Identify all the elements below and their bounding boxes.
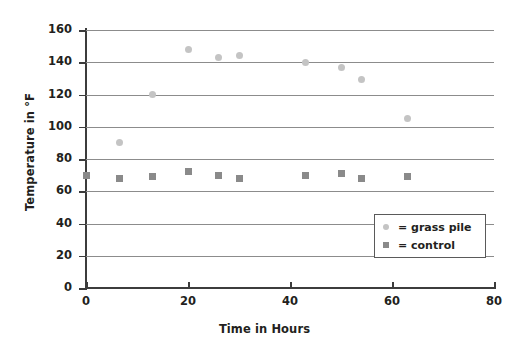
data-point-grass-pile <box>149 91 156 98</box>
y-axis-tick <box>79 288 86 290</box>
gridline <box>86 127 494 128</box>
y-axis-tick-label: 0 <box>36 280 72 294</box>
x-axis-tick <box>494 282 496 289</box>
data-point-control <box>185 168 192 175</box>
data-point-control <box>236 175 243 182</box>
y-axis-title: Temperature in °F <box>23 52 37 252</box>
square-marker-icon <box>383 242 389 248</box>
data-point-grass-pile <box>185 46 192 53</box>
gridline <box>86 62 494 63</box>
data-point-control <box>302 172 309 179</box>
y-axis-tick-label: 40 <box>36 216 72 230</box>
data-point-control <box>83 172 90 179</box>
legend-item-grass-pile: = grass pile <box>383 218 472 236</box>
data-point-control <box>358 175 365 182</box>
legend-label-control: = control <box>398 239 455 252</box>
circle-marker-icon <box>383 224 389 230</box>
data-point-grass-pile <box>236 52 243 59</box>
data-point-grass-pile <box>215 54 222 61</box>
y-axis-tick <box>79 191 86 193</box>
scatter-chart: Temperature in °F 020406080100120140160 … <box>0 0 529 350</box>
gridline <box>86 191 494 192</box>
y-axis-tick-label: 20 <box>36 248 72 262</box>
data-point-control <box>404 173 411 180</box>
x-axis-tick-label: 0 <box>66 294 106 308</box>
legend-item-control: = control <box>383 236 455 254</box>
data-point-control <box>338 170 345 177</box>
gridline <box>86 159 494 160</box>
x-axis-tick-label: 20 <box>168 294 208 308</box>
data-point-grass-pile <box>358 76 365 83</box>
y-axis-tick-label: 80 <box>36 151 72 165</box>
data-point-control <box>215 172 222 179</box>
gridline <box>86 30 494 31</box>
y-axis-tick <box>79 95 86 97</box>
y-axis-tick-label: 140 <box>36 54 72 68</box>
y-axis-tick <box>79 256 86 258</box>
x-axis-tick-label: 40 <box>270 294 310 308</box>
y-axis-tick-label: 60 <box>36 183 72 197</box>
y-axis-tick-label: 160 <box>36 22 72 36</box>
data-point-grass-pile <box>338 64 345 71</box>
legend-label-grass-pile: = grass pile <box>398 221 472 234</box>
y-axis-tick <box>79 159 86 161</box>
x-axis-title: Time in Hours <box>0 322 529 336</box>
x-axis-tick-label: 80 <box>474 294 514 308</box>
gridline <box>86 95 494 96</box>
y-axis-tick <box>79 30 86 32</box>
data-point-control <box>116 175 123 182</box>
legend: = grass pile = control <box>374 214 486 258</box>
y-axis-tick <box>79 62 86 64</box>
data-point-grass-pile <box>302 59 309 66</box>
y-axis-tick <box>79 127 86 129</box>
data-point-grass-pile <box>404 115 411 122</box>
y-axis-tick-label: 120 <box>36 87 72 101</box>
x-axis-tick-label: 60 <box>372 294 412 308</box>
y-axis-tick-label: 100 <box>36 119 72 133</box>
data-point-grass-pile <box>116 139 123 146</box>
y-axis-tick <box>79 224 86 226</box>
data-point-control <box>149 173 156 180</box>
